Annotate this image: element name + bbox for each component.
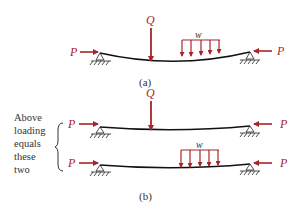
- point-load-label: Q: [146, 86, 155, 100]
- axial-load-left-label: P: [67, 156, 76, 170]
- beam-superposition-diagram: P P Q w (a) Above loading equals these t…: [0, 0, 301, 215]
- distributed-load-label: w: [195, 29, 202, 40]
- axial-load-right-label: P: [279, 117, 288, 131]
- pin-support-right-icon: [240, 164, 260, 175]
- panel-a: P P Q w (a): [69, 13, 285, 89]
- svg-text:equals: equals: [14, 138, 41, 149]
- axial-load-right-label: P: [279, 156, 288, 170]
- axial-load-left-label: P: [67, 117, 76, 131]
- distributed-load-label: w: [196, 139, 203, 150]
- superposition-note: Above loading equals these two: [14, 112, 46, 175]
- svg-text:these: these: [14, 151, 36, 162]
- beam-a: [100, 52, 250, 61]
- pin-support-left-icon: [90, 165, 111, 176]
- beam-b-top: [100, 126, 250, 130]
- panel-b: Above loading equals these two P P Q: [14, 86, 288, 203]
- point-load-label: Q: [146, 13, 155, 27]
- axial-load-left-label: P: [69, 45, 78, 59]
- brace-icon: [55, 123, 63, 171]
- svg-text:two: two: [14, 164, 30, 175]
- pin-support-left-icon: [90, 127, 111, 138]
- distributed-load-arrows-icon: [181, 150, 219, 167]
- distributed-load-arrows-icon: [182, 40, 220, 56]
- panel-b-caption: (b): [139, 190, 152, 203]
- axial-load-right-label: P: [276, 44, 285, 58]
- beam-b-bottom: [100, 164, 250, 168]
- pin-support-right-icon: [240, 126, 260, 137]
- svg-text:loading: loading: [14, 125, 46, 136]
- svg-text:Above: Above: [14, 112, 42, 123]
